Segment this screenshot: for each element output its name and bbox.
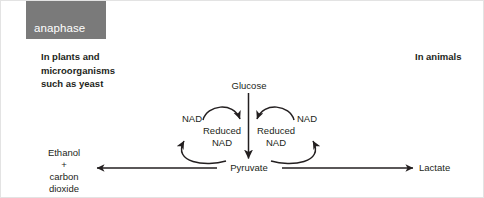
- label-glucose: Glucose: [224, 80, 274, 92]
- label-reduced-nad-right: Reduced NAD: [252, 125, 300, 149]
- anaerobic-respiration-diagram: anaphase In plants and microorganisms su…: [0, 0, 484, 198]
- label-pyruvate: Pyruvate: [223, 162, 275, 174]
- label-ethanol-carbon-dioxide: Ethanol + carbon dioxide: [35, 147, 93, 195]
- label-lactate: Lactate: [419, 162, 467, 174]
- arrow-glucose-to-reduced-nad-left: [203, 107, 240, 120]
- label-nad-right: NAD: [292, 113, 322, 125]
- label-reduced-nad-left: Reduced NAD: [198, 125, 246, 149]
- label-nad-left: NAD: [177, 113, 207, 125]
- arrow-glucose-to-reduced-nad-right: [257, 107, 294, 120]
